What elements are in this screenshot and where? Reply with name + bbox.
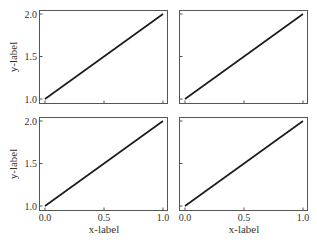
data-line [45, 121, 163, 206]
ytick-label: 1.0 [25, 201, 38, 212]
xtick-label: 0.5 [98, 212, 111, 223]
subplot-bottom-left: 2.0 1.5 1.0 0.0 0.5 1.0 x-label y-label [7, 116, 169, 236]
data-line [45, 14, 163, 99]
subplot-top-left: 2.0 1.5 1.0 y-label [7, 9, 168, 105]
xtick-label: 1.0 [297, 212, 310, 223]
xtick-label: 0.5 [238, 212, 251, 223]
ytick-label: 2.0 [25, 9, 38, 20]
subplot-bottom-right: 0.0 0.5 1.0 x-label [179, 118, 310, 236]
x-axis-label: x-label [89, 223, 120, 235]
ytick-label: 1.5 [25, 158, 38, 169]
ytick-label: 1.0 [25, 94, 38, 105]
xtick-label: 0.0 [39, 212, 52, 223]
subplot-top-right [180, 11, 308, 104]
subplot-grid: 2.0 1.5 1.0 y-label 2.0 1.5 1.0 0.0 0.5 … [0, 0, 317, 240]
data-line [185, 14, 303, 99]
xtick-label: 1.0 [157, 212, 170, 223]
data-line [185, 121, 303, 206]
ytick-label: 2.0 [25, 116, 38, 127]
y-axis-label: y-label [7, 149, 19, 180]
ytick-label: 1.5 [25, 51, 38, 62]
x-axis-label: x-label [229, 223, 260, 235]
xtick-label: 0.0 [179, 212, 192, 223]
y-axis-label: y-label [7, 42, 19, 73]
